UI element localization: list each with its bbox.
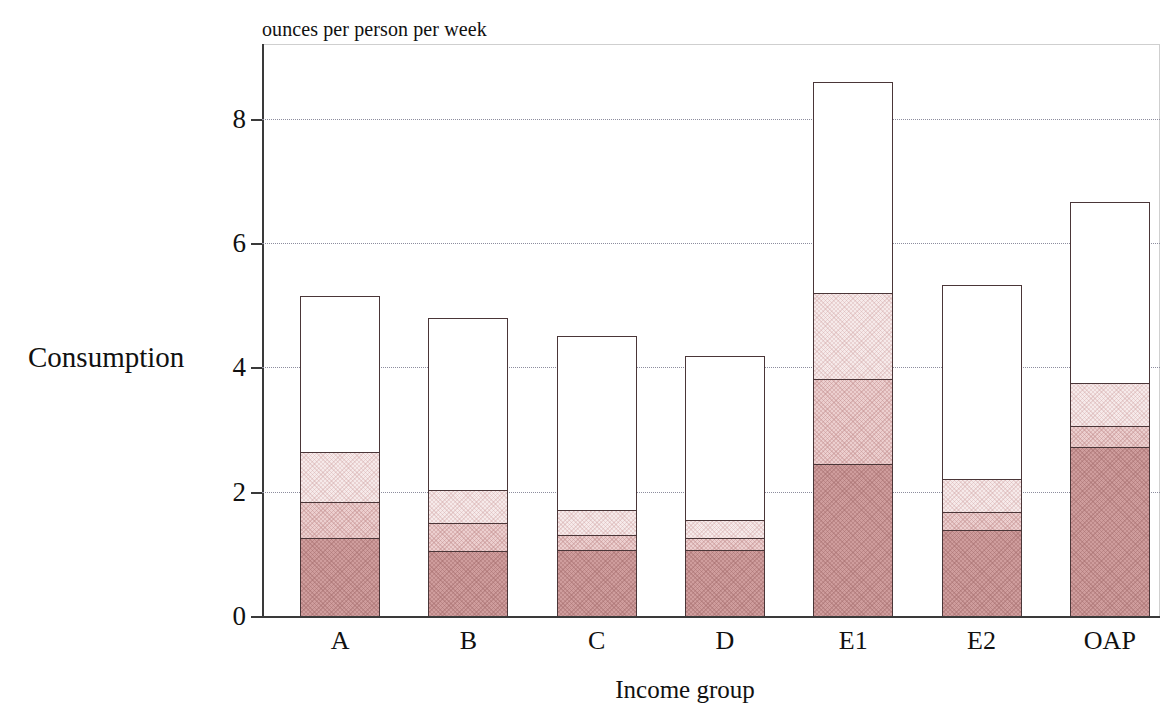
x-axis-line [262,616,1160,618]
bar-segment-B-2 [428,523,508,551]
bar-D [685,356,765,617]
bar-segment-B-1 [428,551,508,616]
bar-segment-OAP-4 [1070,202,1150,384]
bar-segment-A-4 [300,296,380,451]
bar-segment-D-3 [685,520,765,539]
x-axis-label-D: D [716,626,735,656]
x-axis-label-B: B [460,626,477,656]
bar-segment-A-2 [300,502,380,538]
bar-segment-C-3 [557,510,637,534]
bar-segment-A-1 [300,538,380,616]
y-tick-label-8: 8 [233,105,247,132]
bar-segment-OAP-3 [1070,383,1150,425]
x-axis-label-E1: E1 [839,626,868,656]
gridline-8 [262,119,1160,120]
bar-segment-E1-2 [813,379,893,464]
bar-segment-OAP-2 [1070,426,1150,447]
y-tick-label-6: 6 [233,229,247,256]
x-axis-title-text: Income group [615,676,755,703]
bar-C [557,336,637,616]
bar-A [300,296,380,616]
bar-segment-E2-1 [942,530,1022,616]
y-tick-label-4: 4 [233,354,247,381]
bar-E1 [813,82,893,616]
y-tick-8 [251,119,262,121]
x-axis-label-C: C [588,626,605,656]
bar-segment-B-3 [428,490,508,523]
bar-segment-E2-3 [942,479,1022,512]
bar-segment-A-3 [300,452,380,502]
y-axis-title: Consumption [28,341,184,374]
gridline-6 [262,243,1160,244]
unit-caption: ounces per person per week [262,18,487,41]
bar-segment-C-1 [557,550,637,616]
bar-OAP [1070,202,1150,616]
y-tick-2 [251,492,262,494]
bar-segment-D-1 [685,550,765,616]
y-tick-label-2: 2 [233,478,247,505]
chart-root: ounces per person per week Consumption I… [0,0,1160,719]
bar-segment-E2-4 [942,285,1022,479]
plot-area: 02468 ABCDE1E2OAP [262,44,1160,618]
y-axis-line [262,44,264,618]
bar-segment-E1-1 [813,464,893,616]
bar-segment-C-2 [557,535,637,551]
x-axis-label-OAP: OAP [1084,626,1136,656]
bar-segment-B-4 [428,318,508,491]
bar-segment-E2-2 [942,512,1022,530]
y-tick-6 [251,243,262,245]
x-axis-label-E2: E2 [967,626,996,656]
bar-segment-D-2 [685,538,765,550]
y-tick-0 [251,616,262,618]
y-tick-label-0: 0 [233,603,247,630]
bar-B [428,318,508,616]
y-tick-4 [251,367,262,369]
x-axis-title: Income group [0,676,1160,704]
bar-E2 [942,285,1022,616]
bar-segment-E1-4 [813,82,893,293]
x-axis-label-A: A [331,626,350,656]
bar-segment-E1-3 [813,293,893,379]
plot-border-top [262,44,1160,45]
bar-segment-C-4 [557,336,637,511]
bar-segment-OAP-1 [1070,447,1150,616]
bar-segment-D-4 [685,356,765,520]
